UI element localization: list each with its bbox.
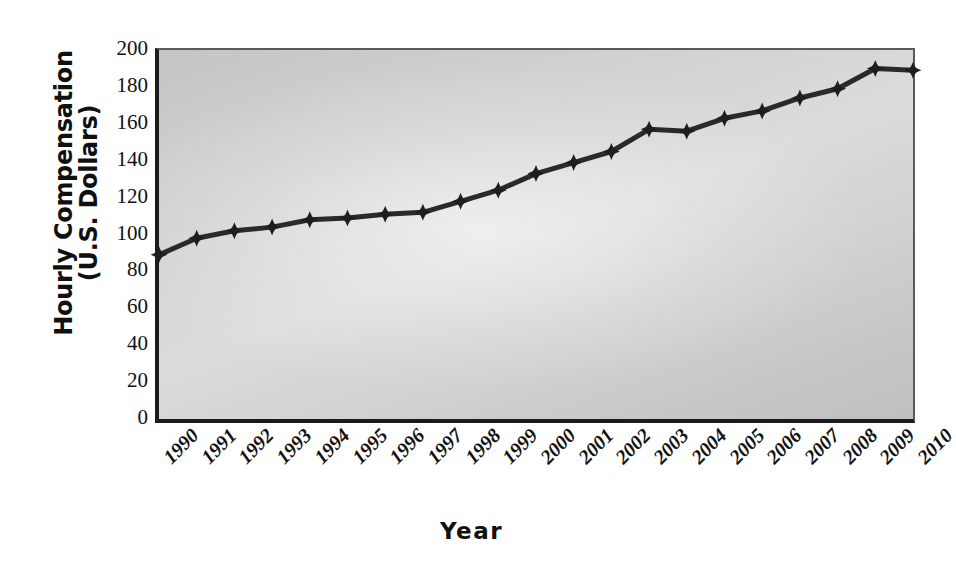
y-axis-tick-label: 180 [92,75,148,96]
y-axis-tick-label: 60 [92,296,148,317]
data-point-marker [452,193,469,210]
plot-area [155,48,915,423]
data-point-marker [301,211,318,228]
data-point-marker [528,165,545,182]
data-point-marker [716,110,733,127]
data-series-svg [159,50,913,419]
data-point-marker [678,123,695,140]
x-axis-tick-labels: 1990199119921993199419951996199719981999… [0,424,943,510]
data-point-marker [339,209,356,226]
data-point-marker [791,89,808,106]
y-axis-tick-label: 100 [92,223,148,244]
data-point-marker [226,222,243,239]
y-axis-tick-label: 200 [92,38,148,59]
y-axis-tick-label: 20 [92,370,148,391]
data-point-marker [754,102,771,119]
y-axis-title-line-1: Hourly Compensation [52,50,77,335]
data-point-marker [151,246,168,263]
data-point-marker [188,230,205,247]
x-axis-title: Year [0,518,943,544]
y-axis-tick-label: 80 [92,259,148,280]
data-point-marker [264,219,281,236]
y-axis-tick-label: 160 [92,112,148,133]
y-axis-tick-labels: 200180160140120100806040200 [92,36,148,429]
data-point-marker [414,204,431,221]
y-axis-tick-label: 140 [92,149,148,170]
data-point-marker [565,154,582,171]
data-point-marker [905,62,922,79]
y-axis-tick-label: 120 [92,186,148,207]
data-point-marker [490,182,507,199]
y-axis-tick-label: 40 [92,333,148,354]
data-point-marker [377,206,394,223]
